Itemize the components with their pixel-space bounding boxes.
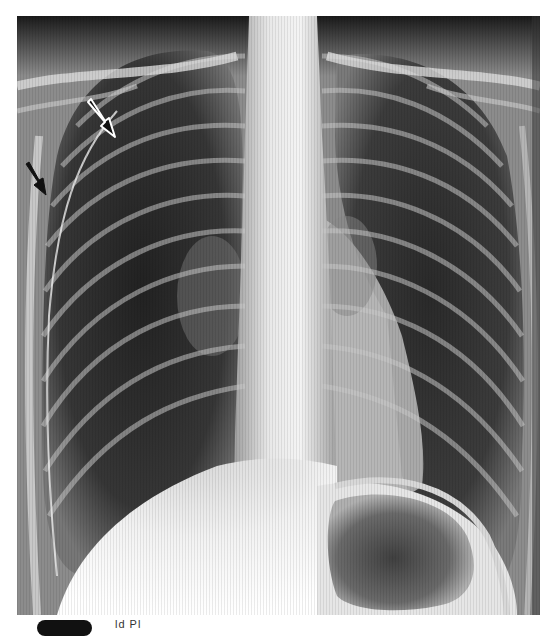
chest-xray-image bbox=[17, 16, 540, 615]
xray-rendering bbox=[17, 16, 540, 615]
pill-badge-icon bbox=[37, 620, 92, 636]
caption-bar: ld Pl bbox=[0, 617, 553, 629]
caption-text: ld Pl bbox=[115, 619, 141, 630]
